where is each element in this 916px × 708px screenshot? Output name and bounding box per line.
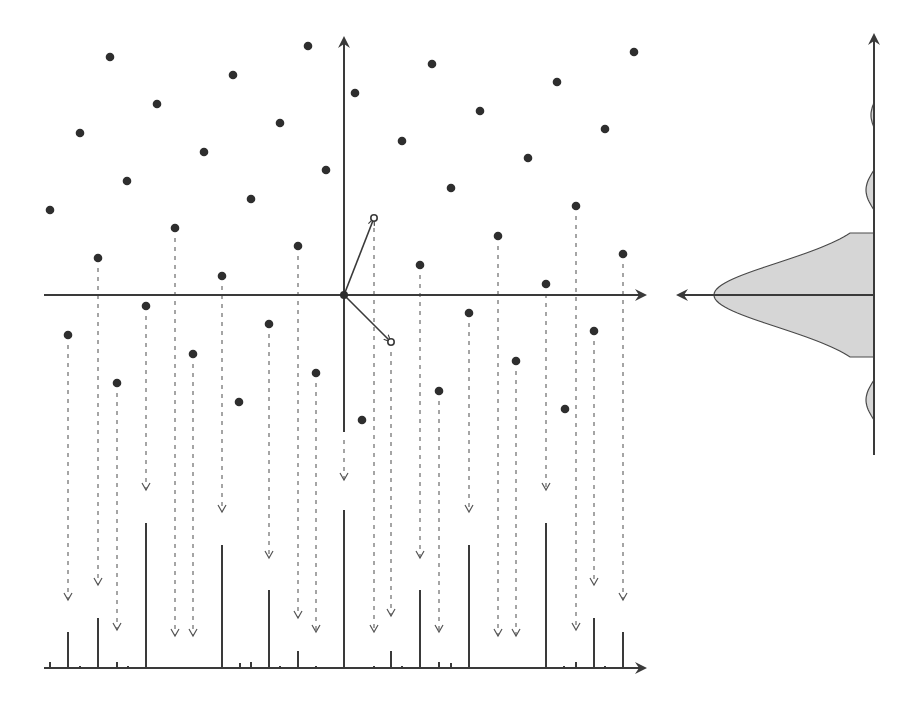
- lattice-point: [476, 107, 485, 116]
- lattice-point: [416, 261, 425, 270]
- lattice-point: [590, 327, 599, 336]
- lattice-point: [322, 166, 331, 175]
- lattice-projection-diagram: [0, 0, 916, 708]
- lattice-point: [561, 405, 570, 414]
- projection-arrow-icon: [64, 593, 72, 600]
- lattice-point: [351, 89, 360, 98]
- projection-arrow-icon: [619, 593, 627, 600]
- projection-arrow-icon: [113, 623, 121, 630]
- lattice-point: [189, 350, 198, 359]
- lattice-point: [312, 369, 321, 378]
- lattice-point: [153, 100, 162, 109]
- gaussian-profile: [714, 103, 874, 421]
- lattice-point: [524, 154, 533, 163]
- projection-arrow-icon: [387, 609, 395, 616]
- lattice-point: [553, 78, 562, 87]
- lattice-point: [512, 357, 521, 366]
- lattice-point: [294, 242, 303, 251]
- basis-vector-2: [344, 295, 391, 342]
- projection-dashed-lines: [64, 216, 627, 636]
- lattice-point: [235, 398, 244, 407]
- lattice-point: [428, 60, 437, 69]
- origin-point: [340, 291, 348, 299]
- basis-endpoint: [388, 339, 394, 345]
- lattice-point: [542, 280, 551, 289]
- lattice-point: [218, 272, 227, 281]
- lattice-point: [465, 309, 474, 318]
- basis-vectors: [340, 215, 394, 345]
- lattice-point: [398, 137, 407, 146]
- lattice-point: [142, 302, 151, 311]
- lattice-point: [304, 42, 313, 51]
- lattice-point: [247, 195, 256, 204]
- basis-endpoint: [371, 215, 377, 221]
- lattice-point: [46, 206, 55, 215]
- lattice-point: [171, 224, 180, 233]
- lattice-point: [619, 250, 628, 259]
- lattice-point: [113, 379, 122, 388]
- lattice-point: [435, 387, 444, 396]
- lattice-point: [64, 331, 73, 340]
- projection-arrow-icon: [94, 578, 102, 585]
- lattice-point: [76, 129, 85, 138]
- projection-arrow-icon: [218, 505, 226, 512]
- density-profile-panel: [678, 35, 874, 455]
- lattice-point: [358, 416, 367, 425]
- lattice-point: [265, 320, 274, 329]
- basis-vector-1: [344, 218, 374, 295]
- projected-stems: [50, 510, 623, 668]
- lattice-point: [630, 48, 639, 57]
- lattice-point: [106, 53, 115, 62]
- lattice-point: [601, 125, 610, 134]
- projection-arrow-icon: [494, 629, 502, 636]
- projection-arrow-icon: [294, 611, 302, 618]
- lattice-point: [200, 148, 209, 157]
- projection-arrow-icon: [171, 629, 179, 636]
- projection-arrow-icon: [590, 578, 598, 585]
- lattice-point: [447, 184, 456, 193]
- lattice-point: [123, 177, 132, 186]
- lattice-point: [276, 119, 285, 128]
- lattice-point: [229, 71, 238, 80]
- lattice-point: [572, 202, 581, 211]
- lattice-points: [46, 42, 639, 425]
- projection-arrow-icon: [189, 629, 197, 636]
- projection-arrow-icon: [142, 483, 150, 490]
- lattice-point: [494, 232, 503, 241]
- lattice-point: [94, 254, 103, 263]
